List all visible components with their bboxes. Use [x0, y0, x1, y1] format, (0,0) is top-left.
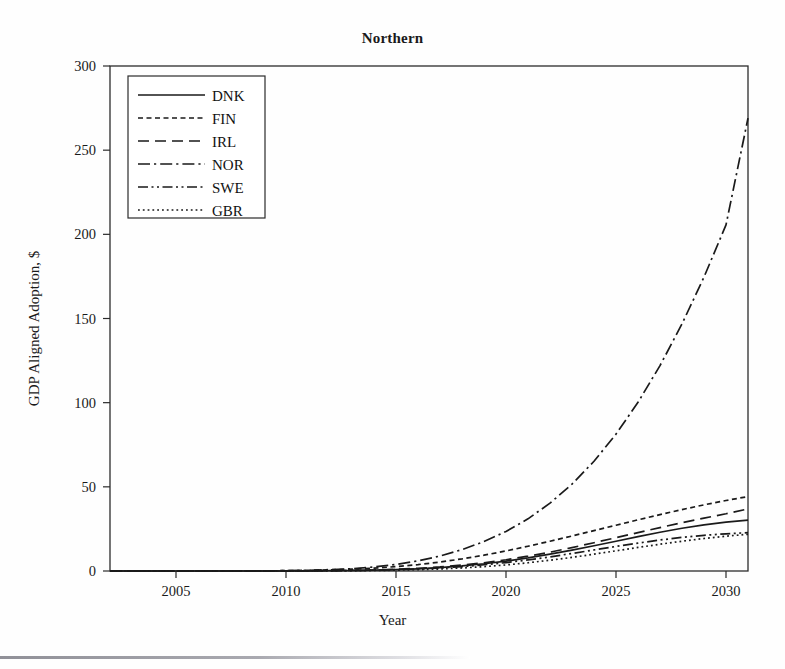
series-line-gbr	[110, 534, 748, 571]
scan-artifact-line	[0, 656, 470, 659]
y-tick-label: 250	[74, 142, 96, 158]
legend-label-fin: FIN	[212, 111, 236, 127]
x-tick-label: 2020	[492, 583, 521, 599]
legend-label-nor: NOR	[212, 157, 244, 173]
series-line-irl	[110, 509, 748, 571]
legend-label-gbr: GBR	[212, 203, 243, 219]
x-tick-label: 2010	[272, 583, 301, 599]
series-line-swe	[110, 533, 748, 571]
legend-label-swe: SWE	[212, 180, 244, 196]
y-tick-label: 0	[89, 563, 96, 579]
x-tick-label: 2005	[162, 583, 191, 599]
y-tick-label: 100	[74, 395, 96, 411]
y-tick-label: 300	[74, 58, 96, 74]
chart-figure: Northern GDP Aligned Adoption, $ Year 20…	[0, 0, 785, 669]
x-tick-label: 2015	[382, 583, 411, 599]
y-tick-label: 50	[82, 479, 97, 495]
plot-area: 2005201020152020202520300501001502002503…	[0, 0, 785, 669]
legend-label-dnk: DNK	[212, 88, 245, 104]
x-tick-label: 2030	[712, 583, 741, 599]
y-tick-label: 150	[74, 311, 96, 327]
y-tick-label: 200	[74, 226, 96, 242]
legend: DNKFINIRLNORSWEGBR	[128, 76, 265, 219]
x-tick-label: 2025	[602, 583, 631, 599]
legend-label-irl: IRL	[212, 134, 236, 150]
